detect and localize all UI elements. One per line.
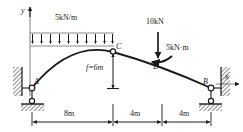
distributed-load-label: 5kN/m bbox=[55, 14, 77, 22]
moment-label: 5kN·m bbox=[166, 44, 189, 52]
arch-structural-diagram bbox=[0, 0, 243, 132]
point-label-a: A bbox=[34, 78, 39, 86]
point-label-b: B bbox=[203, 78, 208, 86]
point-label-c: C bbox=[116, 43, 121, 51]
hinge-c bbox=[110, 49, 115, 54]
y-axis-label: y bbox=[21, 7, 25, 15]
point-load-label: 10kN bbox=[146, 18, 164, 26]
engineering-diagram-canvas: y x 5kN/m 10kN 5kN·m C D A B f=6m 8m 4m … bbox=[0, 0, 243, 132]
arch-curve bbox=[32, 50, 211, 88]
span-label-2: 4m bbox=[130, 110, 140, 118]
span-label-3: 4m bbox=[179, 110, 189, 118]
rise-dimension-label: f=6m bbox=[86, 64, 103, 72]
support-a bbox=[13, 67, 44, 111]
span-label-1: 8m bbox=[64, 110, 74, 118]
point-label-d: D bbox=[153, 63, 159, 71]
x-axis-label: x bbox=[225, 73, 229, 81]
rise-dimension bbox=[107, 54, 119, 89]
distributed-load-arrows bbox=[33, 34, 113, 44]
distributed-load-group bbox=[30, 33, 114, 46]
